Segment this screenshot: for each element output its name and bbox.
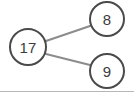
node-part-2: 9: [89, 53, 125, 89]
node-part-2-label: 9: [103, 64, 112, 79]
node-part-1-label: 8: [103, 12, 112, 27]
node-total-label: 17: [19, 40, 36, 55]
edge-total-to-part-1: [46, 26, 90, 41]
node-total: 17: [9, 28, 47, 66]
bottom-divider: [0, 91, 134, 92]
node-part-1: 8: [89, 1, 125, 37]
number-bond-diagram: 17 8 9: [0, 0, 134, 92]
edge-total-to-part-2: [46, 54, 90, 65]
